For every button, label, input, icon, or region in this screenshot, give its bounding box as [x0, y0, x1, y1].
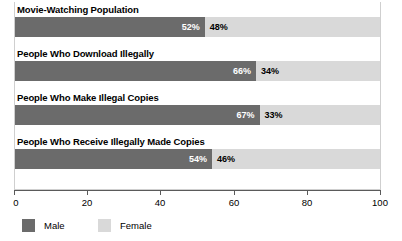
legend-swatch-male-icon: [22, 219, 35, 232]
bar-segment-male: 67%: [15, 105, 260, 125]
x-axis: [14, 190, 381, 196]
bar-value-female: 48%: [210, 17, 228, 37]
bar-value-male: 66%: [233, 61, 251, 81]
stacked-bar-chart: Movie-Watching Population 52% 48% People…: [0, 0, 402, 241]
bar-track-female: 52% 48%: [15, 17, 380, 37]
x-axis-tick-label: 80: [302, 197, 313, 208]
legend-swatch-female-icon: [98, 219, 111, 232]
bar-track-female: 66% 34%: [15, 61, 380, 81]
chart-row: People Who Receive Illegally Made Copies…: [15, 134, 380, 178]
bar-segment-male: 66%: [15, 61, 256, 81]
legend-item-male: Male: [22, 218, 65, 232]
bar-rows: Movie-Watching Population 52% 48% People…: [15, 2, 380, 189]
chart-row: People Who Download Illegally 66% 34%: [15, 46, 380, 90]
x-axis-tick-label: 20: [82, 197, 93, 208]
x-axis-tick: [307, 190, 308, 195]
x-axis-tick: [234, 190, 235, 195]
x-axis-tick-label: 40: [155, 197, 166, 208]
row-label: People Who Download Illegally: [17, 47, 154, 61]
bar-value-male: 52%: [182, 17, 200, 37]
bar-value-male: 54%: [189, 149, 207, 169]
x-axis-tick-label: 0: [13, 197, 18, 208]
row-label: People Who Make Illegal Copies: [17, 91, 159, 105]
row-label: Movie-Watching Population: [17, 3, 139, 17]
row-label: People Who Receive Illegally Made Copies: [17, 135, 205, 149]
x-axis-tick-label: 60: [229, 197, 240, 208]
bar-segment-male: 52%: [15, 17, 205, 37]
bar-value-female: 33%: [265, 105, 283, 125]
bar-segment-male: 54%: [15, 149, 212, 169]
chart-row: People Who Make Illegal Copies 67% 33%: [15, 90, 380, 134]
bar-track-female: 67% 33%: [15, 105, 380, 125]
legend-label-female: Female: [120, 220, 152, 231]
legend-label-male: Male: [44, 220, 65, 231]
x-axis-tick: [14, 190, 15, 195]
bar-track-female: 54% 46%: [15, 149, 380, 169]
x-axis-tick: [87, 190, 88, 195]
bar-value-female: 34%: [261, 61, 279, 81]
x-axis-tick-label: 100: [372, 197, 388, 208]
bar-value-female: 46%: [217, 149, 235, 169]
x-axis-tick: [380, 190, 381, 195]
x-axis-line: [14, 190, 381, 191]
bar-value-male: 67%: [237, 105, 255, 125]
x-axis-tick: [160, 190, 161, 195]
chart-row: Movie-Watching Population 52% 48%: [15, 2, 380, 46]
plot-area: Movie-Watching Population 52% 48% People…: [14, 2, 381, 190]
legend-item-female: Female: [98, 218, 152, 232]
